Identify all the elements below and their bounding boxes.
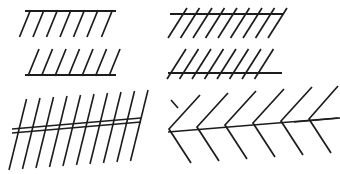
hatch-stroke <box>104 92 122 163</box>
hatch-group-bottom-left <box>9 90 148 170</box>
hatch-stroke <box>69 49 80 76</box>
hatch-stroke <box>36 97 54 168</box>
hatch-stroke <box>131 90 149 161</box>
hatch-stroke <box>74 10 85 37</box>
hatch-stroke <box>82 49 93 76</box>
hatch-stroke <box>55 49 66 76</box>
hatch-stroke <box>60 10 71 37</box>
chevron-stub-stroke <box>171 100 178 108</box>
hatch-stroke <box>63 95 81 166</box>
illusion-figure-root <box>0 0 340 174</box>
hatch-stroke <box>102 10 113 37</box>
hatch-stroke <box>87 10 98 37</box>
hatch-group-mid-right <box>167 49 274 79</box>
hatch-stroke <box>96 49 107 76</box>
panel-bottom-right <box>168 86 340 163</box>
hatch-stroke <box>23 98 41 169</box>
panel-top-right <box>168 8 287 38</box>
panel-top-left <box>20 10 117 37</box>
hatch-stroke <box>42 49 53 76</box>
hatch-stroke <box>117 91 135 162</box>
oblique-long-line-bottom-right-2 <box>294 118 340 122</box>
hatch-stroke <box>50 96 68 167</box>
panel-mid-left <box>25 49 120 76</box>
hatch-stroke <box>109 49 120 76</box>
hatch-stroke <box>47 10 58 37</box>
illusion-figure-canvas <box>0 0 340 174</box>
hatch-stroke <box>90 93 108 164</box>
hatch-group-top-left <box>20 10 113 37</box>
hatch-group-mid-left <box>28 49 120 76</box>
hatch-group-top-right <box>168 8 287 38</box>
hatch-stroke <box>28 49 39 76</box>
hatch-stroke <box>20 10 31 37</box>
hatch-stroke <box>77 94 95 165</box>
panel-bottom-left <box>9 90 148 170</box>
hatch-stroke <box>9 99 27 170</box>
hatch-stroke <box>33 10 44 37</box>
panel-mid-right <box>167 49 282 79</box>
